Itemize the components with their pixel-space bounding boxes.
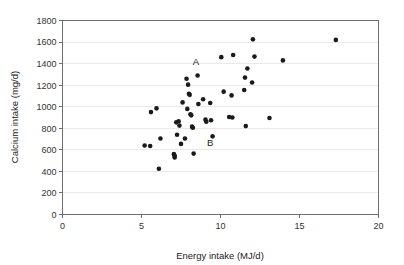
data-point xyxy=(201,97,206,102)
data-point xyxy=(185,107,190,112)
data-point xyxy=(219,55,224,60)
data-point xyxy=(154,106,159,111)
data-point xyxy=(230,115,235,120)
data-point xyxy=(172,155,177,160)
y-tick-label: 0 xyxy=(51,210,56,220)
y-tick-label: 1200 xyxy=(36,81,56,91)
x-tick-label: 15 xyxy=(294,221,304,231)
y-axis-ticks: 020040060080010001200140016001800 xyxy=(36,16,62,220)
data-point xyxy=(179,142,184,147)
data-point xyxy=(221,89,226,94)
x-axis-title: Energy intake (MJ/d) xyxy=(176,250,264,261)
x-tick-label: 20 xyxy=(373,221,383,231)
data-point xyxy=(177,123,182,128)
data-point xyxy=(186,82,191,87)
data-point xyxy=(195,73,200,78)
data-point xyxy=(231,53,236,58)
data-point xyxy=(251,37,256,42)
data-point xyxy=(245,66,250,71)
data-point xyxy=(267,116,272,121)
y-tick-label: 1400 xyxy=(36,59,56,69)
data-point xyxy=(158,136,163,141)
data-point xyxy=(142,143,147,148)
data-point xyxy=(334,38,339,43)
x-tick-label: 10 xyxy=(215,221,225,231)
data-point xyxy=(191,151,196,156)
data-point xyxy=(252,54,257,59)
data-point xyxy=(149,110,154,115)
scatter-plot-figure: 020040060080010001200140016001800 051015… xyxy=(0,0,404,265)
y-axis-title: Calcium intake (mg/d) xyxy=(9,71,20,163)
data-point xyxy=(183,136,188,141)
y-tick-label: 1600 xyxy=(36,37,56,47)
y-tick-label: 1000 xyxy=(36,102,56,112)
annotation-label-a: A xyxy=(193,56,200,67)
data-point xyxy=(175,132,180,137)
data-point xyxy=(196,102,201,107)
x-tick-label: 0 xyxy=(60,221,65,231)
data-point xyxy=(184,76,189,81)
data-point xyxy=(208,101,213,106)
data-point xyxy=(191,125,196,130)
y-tick-label: 1800 xyxy=(36,16,56,26)
data-point xyxy=(204,120,209,125)
y-tick-label: 200 xyxy=(41,188,56,198)
gridlines xyxy=(63,21,379,193)
data-point xyxy=(209,118,214,123)
x-tick-label: 5 xyxy=(139,221,144,231)
x-axis-ticks: 05101520 xyxy=(60,215,384,231)
y-tick-label: 400 xyxy=(41,167,56,177)
data-point xyxy=(281,58,286,63)
data-point xyxy=(176,119,181,124)
data-point xyxy=(180,100,185,105)
data-point xyxy=(157,166,162,171)
data-point xyxy=(148,144,153,149)
data-point xyxy=(242,88,247,93)
data-point xyxy=(250,80,255,85)
y-tick-label: 800 xyxy=(41,124,56,134)
data-point xyxy=(229,93,234,98)
data-points xyxy=(142,37,338,171)
chart-canvas: 020040060080010001200140016001800 051015… xyxy=(0,0,404,265)
axes xyxy=(63,21,379,215)
data-point xyxy=(243,124,248,129)
annotation-label-b: B xyxy=(207,137,213,148)
data-point xyxy=(187,93,192,98)
data-point xyxy=(243,75,248,80)
y-tick-label: 600 xyxy=(41,145,56,155)
data-point xyxy=(189,113,194,118)
